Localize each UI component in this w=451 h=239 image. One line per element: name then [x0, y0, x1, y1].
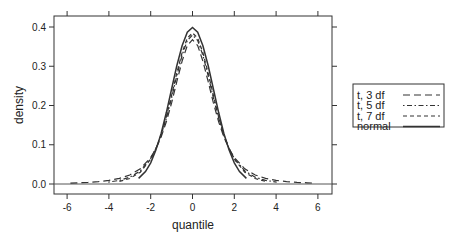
y-tick-label: 0.3 — [32, 61, 46, 72]
x-axis-label: quantile — [172, 218, 214, 232]
y-tick-label: 0.2 — [32, 100, 46, 111]
y-axis-label: density — [12, 86, 26, 124]
density-chart: -6-4-20246 0.00.10.20.30.4 quantile dens… — [0, 0, 451, 239]
x-tick-label: 2 — [232, 202, 238, 213]
series-layer — [70, 27, 314, 183]
plot-frame — [54, 16, 332, 194]
legend: t, 3 dft, 5 dft, 7 dfnormal — [353, 84, 444, 132]
y-tick-label: 0.0 — [32, 179, 46, 190]
series-t-5-df — [108, 35, 276, 182]
x-tick-label: -2 — [146, 202, 155, 213]
x-tick-label: 4 — [273, 202, 279, 213]
series-t-3-df — [70, 40, 314, 183]
x-axis-bottom: -6-4-20246 — [63, 194, 321, 213]
x-tick-label: 6 — [315, 202, 321, 213]
x-tick-label: -4 — [104, 202, 113, 213]
y-axis-right — [332, 27, 337, 184]
series-t-7-df — [119, 33, 265, 182]
x-axis-top — [67, 11, 318, 16]
x-tick-label: -6 — [63, 202, 72, 213]
y-axis-left: 0.00.10.20.30.4 — [32, 22, 54, 190]
x-tick-label: 0 — [190, 202, 196, 213]
series-normal — [139, 27, 247, 178]
legend-label: normal — [357, 120, 391, 132]
y-tick-label: 0.1 — [32, 139, 46, 150]
y-tick-label: 0.4 — [32, 22, 46, 33]
